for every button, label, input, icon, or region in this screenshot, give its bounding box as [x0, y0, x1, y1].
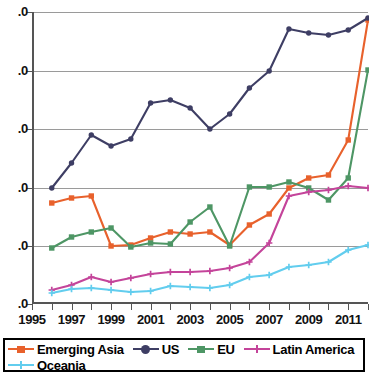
data-point: [326, 172, 331, 177]
data-point: [128, 275, 134, 281]
data-point: [187, 219, 192, 224]
series-emerging-asia: [49, 17, 369, 248]
data-point: [286, 193, 292, 199]
data-point: [147, 271, 153, 277]
series-line: [52, 18, 368, 188]
data-point: [187, 269, 193, 275]
x-axis-label: 2007: [249, 312, 289, 327]
legend-item-us[interactable]: US: [133, 342, 179, 357]
data-point: [227, 111, 232, 116]
legend-item-emerging-asia[interactable]: Emerging Asia: [8, 342, 124, 357]
data-point: [326, 197, 331, 202]
data-point: [168, 97, 173, 102]
legend-row-1: Emerging AsiaUSEULatin America: [8, 341, 360, 357]
legend: Emerging AsiaUSEULatin America Oceania: [3, 338, 365, 372]
data-point: [88, 274, 94, 280]
legend-label: Oceania: [37, 358, 86, 373]
series-layer: [0, 0, 368, 310]
series-eu: [49, 67, 369, 250]
x-axis-label: 2003: [170, 312, 210, 327]
data-point: [187, 105, 192, 110]
data-point: [266, 184, 271, 189]
data-point: [167, 283, 173, 289]
data-point: [226, 265, 232, 271]
data-point: [108, 279, 114, 285]
series-line: [52, 20, 368, 246]
data-point: [326, 32, 331, 37]
data-point: [226, 282, 232, 288]
series-oceania: [49, 242, 369, 296]
data-point: [108, 225, 113, 230]
data-point: [128, 244, 133, 249]
data-point: [346, 175, 351, 180]
legend-label: Emerging Asia: [37, 342, 124, 357]
legend-item-eu[interactable]: EU: [188, 342, 234, 357]
data-point: [128, 289, 134, 295]
data-point: [266, 272, 272, 278]
data-point: [69, 160, 74, 165]
data-point: [286, 264, 292, 270]
data-point: [266, 211, 271, 216]
data-point: [148, 235, 153, 240]
data-point: [69, 234, 74, 239]
data-point: [286, 26, 291, 31]
data-point: [207, 126, 212, 131]
data-point: [207, 285, 213, 291]
legend-marker-icon: [133, 343, 159, 355]
data-point: [207, 204, 212, 209]
data-point: [108, 143, 113, 148]
data-point: [247, 184, 252, 189]
data-point: [147, 288, 153, 294]
legend-marker-icon: [8, 359, 34, 371]
data-point: [89, 229, 94, 234]
data-point: [49, 200, 54, 205]
data-point: [365, 242, 369, 248]
legend-marker-icon: [188, 343, 214, 355]
data-point: [365, 67, 369, 72]
data-point: [49, 185, 54, 190]
data-point: [247, 222, 252, 227]
data-point: [266, 68, 271, 73]
data-point: [108, 287, 114, 293]
data-point: [246, 274, 252, 280]
x-axis-label: 2009: [289, 312, 329, 327]
series-us: [49, 15, 369, 190]
data-point: [88, 285, 94, 291]
legend-label: EU: [217, 342, 234, 357]
data-point: [286, 179, 291, 184]
series-line: [52, 186, 368, 290]
data-point: [247, 85, 252, 90]
legend-item-oceania[interactable]: Oceania: [8, 358, 86, 373]
legend-marker-icon: [8, 343, 34, 355]
legend-label: Latin America: [273, 342, 355, 357]
data-point: [365, 185, 369, 191]
data-point: [306, 30, 311, 35]
series-latin-america: [49, 183, 369, 293]
data-point: [128, 136, 133, 141]
data-point: [89, 132, 94, 137]
x-axis-label: 1997: [52, 312, 92, 327]
data-point: [306, 262, 312, 268]
legend-row-2: Oceania: [8, 357, 360, 373]
data-point: [207, 229, 212, 234]
legend-marker-icon: [244, 343, 270, 355]
data-point: [346, 27, 351, 32]
data-point: [167, 269, 173, 275]
x-axis-label: 2011: [328, 312, 368, 327]
plot-area: .0.0.0.0.0.0 199519971999200120032005200…: [0, 0, 368, 310]
x-axis-label: 2001: [131, 312, 171, 327]
data-point: [148, 100, 153, 105]
data-point: [49, 245, 54, 250]
data-point: [345, 183, 351, 189]
data-point: [306, 175, 311, 180]
x-axis-label: 2005: [210, 312, 250, 327]
legend-label: US: [162, 342, 179, 357]
data-point: [346, 137, 351, 142]
legend-item-latin-america[interactable]: Latin America: [244, 342, 355, 357]
data-point: [187, 231, 192, 236]
data-point: [168, 229, 173, 234]
x-axis-label: 1999: [91, 312, 131, 327]
data-point: [108, 243, 113, 248]
data-point: [168, 241, 173, 246]
